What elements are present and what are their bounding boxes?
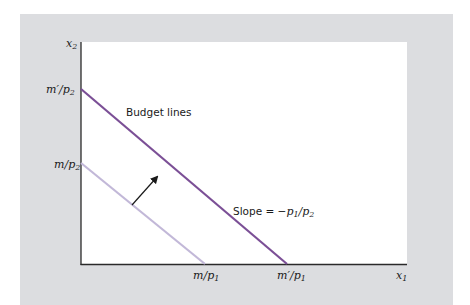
- y-axis-label: x2: [66, 38, 77, 49]
- x-tick-inner-intercept: m/p1: [193, 270, 219, 281]
- y-tick-outer-intercept: m′/p2: [46, 84, 75, 95]
- budget-lines-annotation: Budget lines: [126, 107, 192, 118]
- x-tick-outer-intercept: m′/p1: [277, 270, 306, 281]
- y-tick-inner-intercept: m/p2: [54, 159, 80, 170]
- slope-annotation: Slope = −p1/p2: [233, 206, 314, 217]
- x-axis-label: x1: [396, 270, 407, 281]
- shift-arrow-icon: [132, 177, 157, 205]
